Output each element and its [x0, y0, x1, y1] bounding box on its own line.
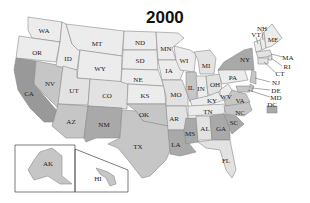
state-label-tn: TN — [203, 108, 212, 116]
state-label-nv: NV — [45, 80, 55, 88]
state-label-ak: AK — [43, 160, 53, 168]
state-label-mn: MN — [160, 45, 171, 53]
state-label-la: LA — [171, 141, 180, 149]
state-ct[interactable] — [258, 58, 268, 64]
state-label-me: ME — [268, 36, 279, 44]
state-label-nd: ND — [135, 39, 145, 47]
state-label-ms: MS — [185, 130, 195, 138]
state-label-mt: MT — [92, 40, 103, 48]
state-label-ri: RI — [284, 63, 292, 71]
state-label-id: ID — [64, 55, 71, 63]
state-label-ar: AR — [169, 115, 179, 123]
state-label-sc: SC — [230, 119, 239, 127]
leader-line — [264, 62, 276, 73]
state-label-nj: NJ — [272, 79, 280, 87]
leader-line — [271, 54, 283, 57]
leader-line — [255, 78, 270, 82]
state-label-mi: MI — [202, 62, 211, 70]
state-label-ia: IA — [165, 67, 172, 75]
us-map: WAORCANVIDMTWYUTAZCONMNDSDNEKSOKTXMNIAMO… — [0, 0, 310, 203]
state-label-ut: UT — [69, 87, 79, 95]
state-label-ky: KY — [207, 97, 217, 105]
state-fl[interactable] — [198, 140, 236, 178]
state-label-or: OR — [32, 49, 42, 57]
state-label-wa: WA — [39, 27, 50, 35]
state-label-il: IL — [188, 84, 195, 92]
state-label-dc: DC — [267, 101, 277, 109]
state-label-az: AZ — [66, 118, 75, 126]
state-label-ct: CT — [276, 70, 286, 78]
state-label-wy: WY — [94, 65, 106, 73]
state-label-al: AL — [200, 125, 209, 133]
state-label-ma: MA — [282, 54, 293, 62]
leader-line — [252, 88, 270, 90]
state-label-ca: CA — [24, 90, 34, 98]
state-md[interactable] — [236, 86, 250, 92]
state-label-ga: GA — [216, 125, 226, 133]
state-label-wi: WI — [180, 57, 190, 65]
state-label-oh: OH — [210, 81, 220, 89]
state-nj[interactable] — [250, 70, 256, 84]
state-label-ny: NY — [240, 56, 250, 64]
state-label-fl: FL — [222, 157, 230, 165]
state-label-ok: OK — [139, 111, 149, 119]
state-label-nc: NC — [235, 109, 245, 117]
leader-line — [271, 58, 282, 66]
state-label-ks: KS — [141, 92, 150, 100]
leader-line — [248, 90, 270, 97]
state-label-nm: NM — [98, 121, 110, 129]
state-label-co: CO — [102, 92, 112, 100]
state-label-in: IN — [197, 85, 204, 93]
state-label-tx: TX — [133, 143, 142, 151]
state-label-hi: HI — [94, 175, 102, 183]
state-label-ne: NE — [133, 76, 142, 84]
state-label-va: VA — [235, 97, 244, 105]
state-label-wv: WV — [220, 93, 232, 101]
state-label-mo: MO — [170, 91, 181, 99]
state-label-sd: SD — [136, 57, 145, 65]
state-label-pa: PA — [229, 74, 237, 82]
